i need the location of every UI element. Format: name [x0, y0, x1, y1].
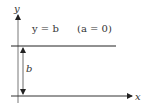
y-axis-label: y — [13, 3, 20, 14]
line-equation-label: y = b — [31, 23, 59, 34]
condition-label: (a = 0) — [77, 23, 112, 34]
distance-label: b — [26, 63, 32, 74]
x-axis-label: x — [135, 91, 141, 102]
diagram-canvas: y x y = b (a = 0) b — [0, 0, 146, 109]
